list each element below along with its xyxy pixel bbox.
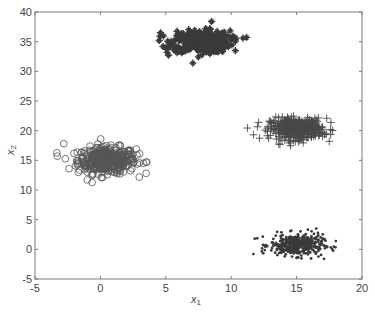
y-tick-label: 30 — [20, 65, 32, 77]
y-tick-label: 5 — [26, 214, 32, 226]
y-axis-label: x2 — [4, 144, 18, 156]
y-tick-label: 0 — [26, 243, 32, 255]
chart-canvas: -505101520 -50510152025303540 x1 x2 — [0, 0, 375, 313]
y-tick-label: 40 — [20, 6, 32, 18]
data-points — [53, 18, 337, 260]
x-tick-label: 10 — [225, 282, 237, 294]
y-tick-label: -5 — [22, 273, 32, 285]
x-tick-label: 15 — [290, 282, 302, 294]
y-tick-label: 25 — [20, 95, 32, 107]
y-tick-label: 35 — [20, 36, 32, 48]
cluster-3-points — [244, 112, 337, 149]
y-tick-label: 20 — [20, 125, 32, 137]
x-tick-label: 0 — [97, 282, 103, 294]
y-tick-label: 10 — [20, 184, 32, 196]
y-tick-label: 15 — [20, 154, 32, 166]
cluster-4-points — [252, 227, 337, 260]
x-tick-label: 20 — [356, 282, 368, 294]
x-axis-label: x1 — [190, 293, 202, 307]
scatter-chart: -505101520 -50510152025303540 x1 x2 — [0, 0, 375, 313]
cluster-2-points — [156, 18, 251, 67]
cluster-1-points — [53, 136, 150, 186]
x-tick-label: 5 — [163, 282, 169, 294]
